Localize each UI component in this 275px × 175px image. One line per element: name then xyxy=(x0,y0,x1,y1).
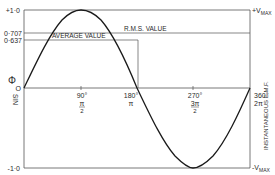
phi-symbol: Φ xyxy=(8,75,16,86)
x-label-270-rad-den: 2 xyxy=(193,108,197,114)
vmax-plus-sub: MAX xyxy=(261,10,273,16)
sin-label: SIN xyxy=(12,94,19,105)
vmax-plus-main: +V xyxy=(252,7,261,14)
vmax-minus-sub: MAX xyxy=(259,167,271,173)
x-label-270-deg: 270° xyxy=(188,92,203,99)
x-label-90-rad-num: π xyxy=(80,100,85,107)
instantaneous-emf-label: INSTANTANEOUS E.M.F. xyxy=(263,81,269,150)
x-label-360-rad: 2π xyxy=(254,100,263,107)
x-label-90-deg: 90° xyxy=(77,92,88,99)
x-label-90-rad-den: 2 xyxy=(80,108,84,114)
tick-label-0707: 0·707 xyxy=(4,30,22,37)
average-value-label: AVERAGE VALUE xyxy=(52,32,106,39)
rms-value-label: R.M.S. VALUE xyxy=(124,25,167,32)
x-label-180-deg: 180° xyxy=(124,92,139,99)
vmax-plus-label: +VMAX xyxy=(252,7,272,16)
x-label-180-rad: π xyxy=(129,100,134,107)
vmax-minus-label: -VMAX xyxy=(252,164,271,173)
tick-label-zero: O xyxy=(16,85,22,92)
tick-label-minus-one: -1·0 xyxy=(8,165,21,172)
x-label-270-rad-num: 3π xyxy=(191,100,200,107)
sine-wave-diagram: +1·0 0·707 0·637 O -1·0 Φ SIN R.M.S. VAL… xyxy=(0,0,275,175)
tick-label-0637: 0·637 xyxy=(4,37,22,44)
tick-label-plus-one: +1·0 xyxy=(6,7,20,14)
